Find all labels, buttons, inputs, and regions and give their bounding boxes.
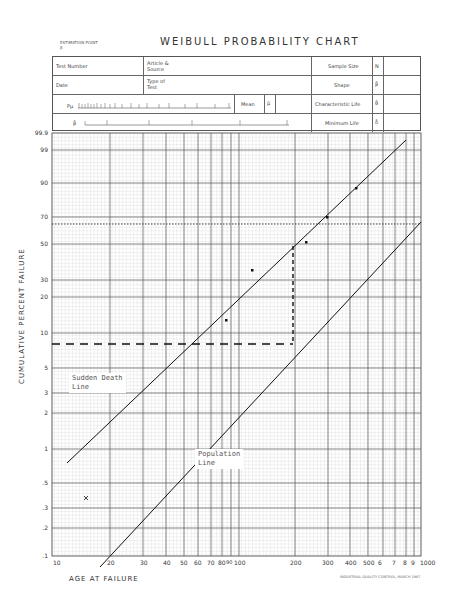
x-tick-50: 50 [180, 559, 188, 566]
x-tick-30: 30 [140, 559, 148, 566]
y-tick-0-3: .3 [28, 504, 48, 511]
y-tick-0-5: .5 [28, 479, 48, 486]
x-tick-90: 90 [226, 559, 232, 565]
x-tick-700: 7 [392, 559, 396, 566]
x-tick-40: 40 [163, 559, 171, 566]
x-tick-60: 60 [194, 559, 202, 566]
sudden-death-label-line1: Sudden Death [72, 374, 123, 383]
x-tick-20: 20 [107, 559, 115, 566]
x-tick-500: 500 [363, 559, 374, 566]
credit-line: INDUSTRIAL QUALITY CONTROL, MARCH 1967 [340, 575, 420, 579]
x-tick-10: 10 [53, 559, 61, 566]
weibull-plot-area [0, 0, 459, 602]
x-tick-80: 80 [218, 559, 226, 566]
sudden-death-label-line2: Line [72, 383, 123, 392]
x-tick-100: 100 [234, 559, 245, 566]
y-axis-title: CUMULATIVE PERCENT FAILURE [18, 264, 26, 384]
x-tick-600: 6 [378, 559, 382, 566]
y-tick-70: 70 [28, 213, 48, 220]
y-tick-99: 99 [28, 146, 48, 153]
y-tick-99-9: 99.9 [28, 129, 48, 136]
population-label-line1: Population [198, 450, 240, 459]
y-tick-10: 10 [28, 329, 48, 336]
y-tick-30: 30 [28, 276, 48, 283]
x-tick-1000: 1000 [420, 559, 435, 566]
sudden-death-line-label: Sudden Death Line [69, 373, 126, 393]
x-tick-200: 200 [290, 559, 301, 566]
y-tick-0-1: .1 [28, 552, 48, 559]
y-tick-50: 50 [28, 240, 48, 247]
y-tick-0-2: .2 [28, 524, 48, 531]
y-tick-90: 90 [28, 179, 48, 186]
x-tick-800: 8 [403, 559, 407, 566]
y-tick-20: 20 [28, 293, 48, 300]
x-tick-400: 400 [345, 559, 356, 566]
y-tick-3: 3 [28, 389, 48, 396]
population-label-line2: Line [198, 459, 240, 468]
x-tick-900: 9 [411, 559, 415, 566]
x-tick-300: 300 [322, 559, 333, 566]
x-tick-70: 70 [207, 559, 215, 566]
x-axis-title: AGE AT FAILURE [69, 575, 139, 583]
y-tick-1: 1 [28, 445, 48, 452]
y-tick-2: 2 [28, 409, 48, 416]
population-line-label: Population Line [195, 449, 243, 469]
y-tick-5: 5 [28, 364, 48, 371]
